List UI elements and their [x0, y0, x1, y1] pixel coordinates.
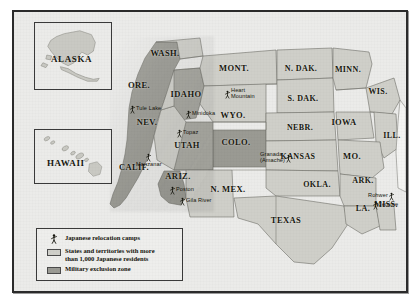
state-texas	[234, 196, 348, 264]
inset-alaska: ALASKA	[34, 22, 112, 90]
relocation-camp-icon	[225, 90, 230, 98]
relocation-camp-icon	[286, 154, 291, 162]
relief-shading	[110, 36, 214, 212]
state-label-utah: UTAH	[174, 140, 200, 150]
map-canvas: ALASKA HAWAII WASH.ORE.ID	[14, 12, 406, 291]
legend-swatch-dark	[47, 267, 61, 274]
legend-label-camps: Japanese relocation camps	[65, 234, 140, 242]
relocation-camp-icon	[373, 201, 378, 209]
legend-label-residents: States and territories with more than 1,…	[65, 247, 155, 262]
relocation-camp-icon	[51, 234, 57, 244]
state-label-okla: OKLA.	[303, 180, 331, 189]
states-plain-layer	[396, 100, 406, 192]
state-label-n-mex: N. MEX.	[210, 184, 245, 194]
relocation-camp-icon	[130, 105, 135, 113]
camp-label-manzanar: Manzanar	[136, 162, 162, 168]
legend-swatch-light-wrap	[43, 247, 65, 256]
camp-marker-manzanar: Manzanar	[136, 153, 162, 168]
relocation-camp-icon	[180, 197, 185, 205]
relocation-camp-icon	[186, 110, 191, 118]
state-label-minn: MINN.	[335, 65, 361, 74]
state-label-idaho: IDAHO	[171, 89, 202, 99]
camp-label-granada-amache: Granada (Amache)	[260, 152, 285, 163]
state-label-colo: COLO.	[221, 137, 250, 147]
camp-label-heart-mountain: Heart Mountain	[231, 88, 255, 99]
camp-marker-granada-amache: Granada (Amache)	[260, 152, 291, 163]
camp-label-topaz: Topaz	[183, 130, 198, 136]
camp-marker-jerome: Jerome	[373, 201, 398, 209]
hawaii-shape	[35, 130, 111, 183]
camp-label-poston: Poston	[176, 187, 194, 193]
map-page: ALASKA HAWAII WASH.ORE.ID	[0, 0, 420, 305]
legend-label-exclusion: Military exclusion zone	[65, 265, 131, 273]
relocation-camp-icon	[177, 129, 182, 137]
state-label-la: LA.	[356, 204, 370, 213]
state-label-mont: MONT.	[219, 63, 249, 73]
camp-label-jerome: Jerome	[379, 202, 398, 208]
inset-hawaii-label: HAWAII	[47, 158, 85, 168]
state-label-nebr: NEBR.	[287, 123, 313, 132]
camp-marker-rohwer: Rohwer	[368, 192, 394, 200]
relocation-camp-icon	[146, 153, 151, 161]
state-label-s-dak: S. DAK.	[287, 94, 318, 103]
map-frame: ALASKA HAWAII WASH.ORE.ID	[12, 10, 408, 293]
inset-hawaii: HAWAII	[34, 129, 112, 184]
legend-swatch-light	[47, 249, 61, 256]
map-legend: Japanese relocation camps States and ter…	[36, 228, 183, 281]
camp-label-tule-lake: Tule Lake	[136, 106, 161, 112]
camp-marker-minidoka: Minidoka	[186, 110, 215, 118]
relocation-camp-icon	[170, 186, 175, 194]
camp-marker-gila-river: Gila River	[180, 197, 212, 205]
state-label-wis: WIS.	[368, 87, 387, 96]
state-label-wyo: WYO.	[221, 110, 246, 120]
state-wisconsin	[366, 78, 400, 114]
camp-marker-topaz: Topaz	[177, 129, 198, 137]
state-label-ariz: ARIZ.	[165, 171, 190, 181]
legend-camp-icon	[43, 234, 65, 244]
legend-row-exclusion: Military exclusion zone	[43, 265, 176, 274]
camp-label-minidoka: Minidoka	[192, 111, 215, 117]
hawaii-islands	[43, 136, 101, 177]
inset-alaska-label: ALASKA	[51, 54, 92, 64]
legend-row-camps: Japanese relocation camps	[43, 234, 176, 244]
camp-label-rohwer: Rohwer	[368, 193, 388, 199]
state-label-wash: WASH.	[150, 48, 179, 58]
exclusion-zone-colorado	[213, 130, 266, 167]
relocation-camp-icon	[389, 192, 394, 200]
state-label-ore: ORE.	[128, 80, 150, 90]
legend-swatch-dark-wrap	[43, 265, 65, 274]
camp-label-gila-river: Gila River	[186, 198, 212, 204]
camp-marker-heart-mountain: Heart Mountain	[225, 88, 255, 99]
camp-marker-poston: Poston	[170, 186, 194, 194]
state-label-nev: NEV.	[137, 117, 158, 127]
camp-marker-tule-lake: Tule Lake	[130, 105, 161, 113]
state-label-texas: TEXAS	[271, 215, 301, 225]
state-label-n-dak: N. DAK.	[285, 64, 317, 73]
state-label-iowa: IOWA	[331, 117, 356, 127]
state-east-edge	[396, 100, 406, 192]
state-label-mo: MO.	[343, 151, 361, 161]
legend-row-residents: States and territories with more than 1,…	[43, 247, 176, 262]
state-label-ark: ARK.	[352, 176, 373, 185]
state-label-ill: ILL.	[383, 131, 400, 140]
